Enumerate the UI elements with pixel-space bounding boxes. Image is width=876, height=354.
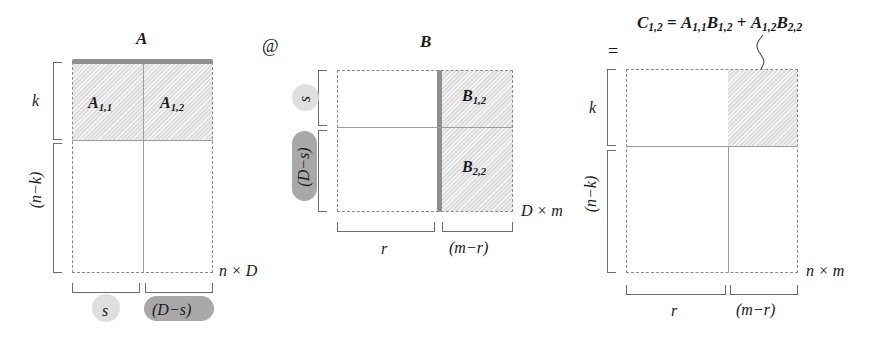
matrix-b-bracket-mr: [442, 222, 513, 232]
equation-term3-sub: 1,2: [762, 21, 776, 34]
matrix-c-bracket-k: [607, 69, 616, 146]
matrix-b-label-b12: B1,2: [462, 88, 486, 106]
matrix-a-label-a11: A1,1: [88, 95, 112, 113]
matrix-c-row-divider: [626, 146, 798, 147]
matrix-b-bracket-mr-label: (m−r): [449, 240, 488, 256]
matrix-c-column-divider: [728, 146, 729, 273]
matrix-a-size-label: n × D: [219, 263, 257, 279]
matrix-b-label-b22-name: B: [462, 158, 473, 175]
matrix-c-bracket-nk: [607, 150, 616, 273]
matrix-c-bracket-r-label: r: [671, 303, 677, 319]
matrix-a-bracket-ds-label: (D−s): [152, 302, 191, 318]
matrix-b-row-divider: [337, 127, 513, 128]
operator-equals-icon: =: [608, 42, 618, 60]
matrix-c-size-label: n × m: [806, 263, 844, 279]
matrix-b-bracket-ds: [318, 130, 327, 212]
matrix-a-bracket-k-label: k: [32, 93, 39, 109]
matrix-a-row-divider: [72, 140, 213, 141]
matrix-c-bracket-k-label: k: [589, 100, 596, 116]
matrix-c-bracket-r: [626, 285, 726, 295]
equation-term4-name: B: [777, 13, 788, 32]
matrix-a-bracket-nk: [53, 143, 62, 273]
matrix-b-column-bar: [437, 70, 442, 212]
matrix-a-label-a11-name: A: [88, 94, 99, 111]
matrix-a-bracket-s-label: s: [102, 303, 108, 319]
matrix-a-bracket-ds: [145, 283, 213, 293]
matrix-a-label-a12-name: A: [160, 94, 171, 111]
equation-term3-name: A: [751, 13, 762, 32]
matrix-a-bracket-nk-label: (n−k): [28, 164, 44, 216]
matrix-b-label-b22: B2,2: [462, 159, 486, 177]
matrix-b-size-label: D × m: [521, 203, 563, 219]
matrix-b-bracket-s: [318, 70, 327, 126]
matrix-a-title: A: [136, 30, 147, 47]
matrix-b-bracket-r: [337, 222, 435, 232]
matrix-a-label-a12: A1,2: [160, 95, 184, 113]
matrix-c-bracket-nk-label: (n−k): [583, 168, 599, 220]
matrix-a-column-divider: [143, 62, 144, 273]
equation-term2-sub: 1,2: [718, 21, 732, 34]
matrix-c-bracket-mr: [730, 285, 798, 295]
matrix-b-label-b12-name: B: [462, 87, 473, 104]
matrix-b-bracket-s-label: s: [297, 84, 313, 114]
matrix-a-bracket-k: [53, 62, 62, 140]
matrix-b-label-b12-sub: 1,2: [473, 94, 487, 106]
matrix-b-bracket-r-label: r: [381, 241, 387, 257]
equation-term1-sub: 1,1: [692, 21, 706, 34]
matrix-c-block-c12-shade: [728, 70, 797, 146]
matrix-a-label-a11-sub: 1,1: [99, 101, 113, 113]
matrix-b-bracket-ds-label: (D−s): [296, 141, 312, 193]
equation-term4-sub: 2,2: [788, 21, 802, 34]
matrix-b-label-b22-sub: 2,2: [473, 165, 487, 177]
equation-lhs-name: C: [637, 13, 648, 32]
matrix-a-bracket-s: [72, 283, 140, 293]
result-equation: C1,2 = A1,1B1,2 + A1,2B2,2: [637, 14, 802, 34]
equation-equals: =: [667, 13, 677, 32]
matrix-c-bracket-mr-label: (m−r): [736, 302, 775, 318]
equation-term1-name: A: [681, 13, 692, 32]
operator-matmul-icon: @: [262, 37, 279, 55]
matrix-a-label-a12-sub: 1,2: [171, 101, 185, 113]
matrix-b-title: B: [420, 33, 431, 50]
equation-lhs-sub: 1,2: [648, 21, 662, 34]
equation-term2-name: B: [707, 13, 718, 32]
